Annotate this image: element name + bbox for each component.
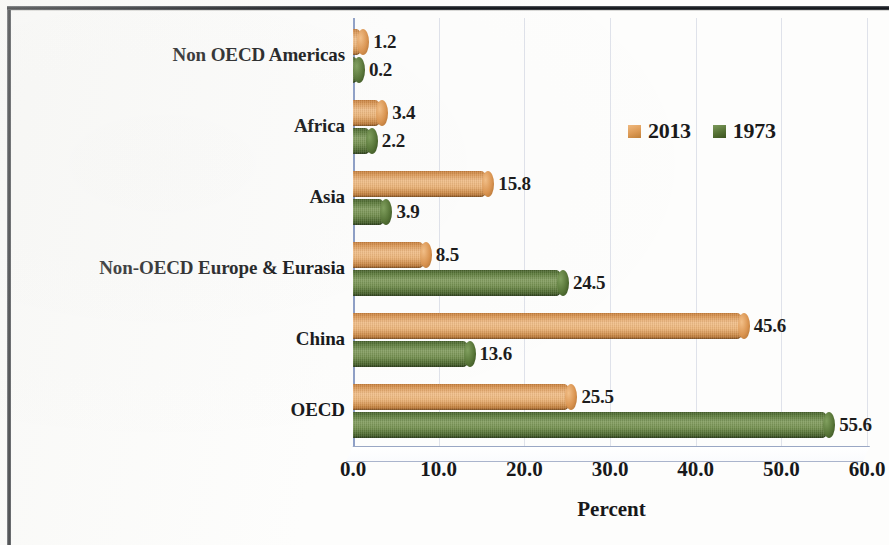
bar-value-label: 0.2 [369, 59, 392, 81]
legend-item-2013[interactable]: 2013 [628, 118, 691, 144]
category-label: Non OECD Americas [173, 44, 345, 66]
bar-value-label: 15.8 [498, 173, 530, 195]
legend-label-2013: 2013 [648, 118, 691, 144]
category-label: Africa [294, 115, 345, 137]
gridline [867, 18, 868, 446]
orange-square-icon [628, 125, 641, 138]
plot-area: 1.20.23.42.215.83.98.524.545.613.625.555… [353, 20, 867, 447]
bar-value-label: 1.2 [373, 31, 396, 53]
legend-item-1973[interactable]: 1973 [713, 118, 776, 144]
chart-legend: 2013 1973 [628, 118, 776, 144]
x-axis-title: Percent [353, 497, 870, 522]
bar-value-label: 24.5 [573, 272, 605, 294]
category-label: OECD [291, 399, 346, 421]
bar-value-label: 55.6 [839, 414, 871, 436]
bar-2013-oecd [353, 384, 571, 410]
bar-2013-africa [353, 100, 382, 126]
green-square-icon [713, 125, 726, 138]
bar-2013-asia [353, 171, 488, 197]
chart-figure: Non OECD AmericasAfricaAsiaNon-OECD Euro… [0, 0, 889, 545]
category-label: China [296, 328, 345, 350]
bar-2013-china [353, 313, 744, 339]
bar-1973-china [353, 341, 470, 367]
category-label: Asia [310, 186, 346, 208]
bar-1973-asia [353, 199, 386, 225]
x-tick-label: 40.0 [677, 457, 714, 482]
x-tick-label: 60.0 [849, 457, 886, 482]
x-tick-label: 50.0 [763, 457, 800, 482]
x-tick-label: 20.0 [506, 457, 543, 482]
bar-value-label: 25.5 [581, 386, 613, 408]
legend-label-1973: 1973 [733, 118, 776, 144]
bar-value-label: 8.5 [436, 244, 459, 266]
bar-1973-non-oecd-europe-eurasia [353, 270, 563, 296]
bar-1973-oecd [353, 412, 829, 438]
bar-value-label: 2.2 [382, 130, 405, 152]
bar-value-label: 45.6 [754, 315, 786, 337]
bar-value-label: 13.6 [480, 343, 512, 365]
category-axis-labels: Non OECD AmericasAfricaAsiaNon-OECD Euro… [0, 0, 345, 545]
category-label: Non-OECD Europe & Eurasia [99, 257, 345, 279]
bar-2013-non-oecd-europe-eurasia [353, 242, 426, 268]
x-tick-label: 0.0 [340, 457, 366, 482]
x-tick-label: 30.0 [592, 457, 629, 482]
bar-1973-africa [353, 128, 372, 154]
x-tick-label: 10.0 [420, 457, 457, 482]
bar-value-label: 3.9 [396, 201, 419, 223]
bar-2013-non-oecd-americas [353, 29, 363, 55]
bar-1973-non-oecd-americas [353, 57, 359, 83]
bar-value-label: 3.4 [392, 102, 415, 124]
